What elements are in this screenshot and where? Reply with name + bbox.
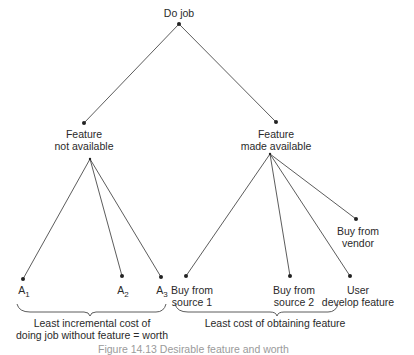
right-branch-node xyxy=(274,120,278,124)
left-branch-label: Feature not available xyxy=(44,128,124,152)
leaf-source2: Buy fromsource 2 xyxy=(270,284,318,308)
leaf-vendor: Buy fromvendor xyxy=(334,225,382,249)
right-branch-line2: made available xyxy=(231,140,321,152)
left-branch-line1: Feature xyxy=(44,128,124,140)
leaf-a1: A1 xyxy=(14,284,34,301)
left-branch-line2: not available xyxy=(44,140,124,152)
root-label: Do job xyxy=(159,7,199,19)
figure-caption: Figure 14.13 Desirable feature and worth xyxy=(98,343,289,355)
right-junction xyxy=(269,153,271,155)
left-branch-node xyxy=(82,121,86,125)
right-branch-line1: Feature xyxy=(231,128,321,140)
leaf-user: Userdevelop feature xyxy=(318,284,398,308)
right-brace-label: Least cost of obtaining feature xyxy=(195,317,355,329)
right-branch-label: Feature made available xyxy=(231,128,321,152)
leaf-source1: Buy fromsource 1 xyxy=(168,284,216,308)
root-node xyxy=(177,22,181,26)
left-brace-label: Least incremental cost ofdoing job witho… xyxy=(12,317,172,341)
leaf-a2: A2 xyxy=(113,284,133,301)
left-junction xyxy=(89,158,91,160)
